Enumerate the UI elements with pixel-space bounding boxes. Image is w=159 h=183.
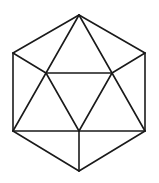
- edge-inner-left-to-bottom-left: [13, 73, 46, 131]
- diagram-canvas: [0, 0, 159, 183]
- edge-inner-right-to-bottom-right: [112, 73, 145, 131]
- edge-hex-bottom-right-to-bottom: [79, 131, 145, 171]
- edge-top-left-to-inner-left: [13, 53, 46, 73]
- edge-hex-bottom-to-bottom-left: [13, 131, 79, 171]
- icosahedron-figure: [0, 0, 159, 183]
- edge-inner-left-to-inner-bottom: [46, 73, 79, 131]
- edge-inner-right-to-inner-bottom: [79, 73, 112, 131]
- edge-top-right-to-inner-right: [112, 53, 145, 73]
